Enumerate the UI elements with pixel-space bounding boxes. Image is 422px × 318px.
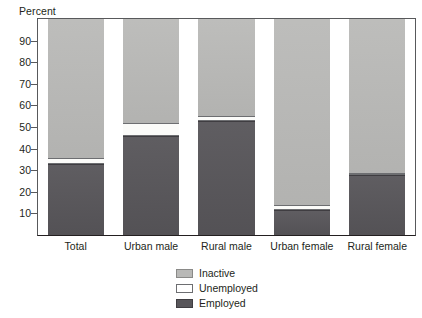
- y-axis-tick-label: 70: [5, 79, 31, 90]
- bar-segment-inactive[interactable]: [274, 19, 330, 205]
- y-axis-tick-mark: [31, 192, 37, 193]
- y-axis-tick-label: 40: [5, 144, 31, 155]
- x-axis-label-rural-female: Rural female: [340, 240, 415, 252]
- legend-swatch-employed-icon: [176, 299, 193, 308]
- legend-label: Unemployed: [199, 282, 258, 294]
- bar-segment-inactive[interactable]: [349, 19, 405, 173]
- y-axis-tick-label: 30: [5, 165, 31, 176]
- x-axis-label-urban-male: Urban male: [113, 240, 188, 252]
- y-axis-tick-mark: [31, 62, 37, 63]
- bar-urban-female[interactable]: [274, 19, 330, 235]
- legend-label: Inactive: [199, 267, 235, 279]
- y-axis-tick-mark: [31, 105, 37, 106]
- bar-segment-inactive[interactable]: [198, 19, 254, 116]
- legend-item-employed[interactable]: Employed: [176, 296, 326, 310]
- bar-segment-unemployed[interactable]: [198, 116, 254, 120]
- x-axis-label-rural-male: Rural male: [189, 240, 264, 252]
- bars-layer: [38, 19, 415, 235]
- y-axis-tick-label: 90: [5, 36, 31, 47]
- chart-legend: InactiveUnemployedEmployed: [176, 266, 326, 311]
- y-axis-tick-mark: [31, 170, 37, 171]
- bar-segment-employed[interactable]: [349, 175, 405, 235]
- bar-segment-employed[interactable]: [274, 210, 330, 235]
- legend-swatch-unemployed-icon: [176, 284, 193, 293]
- y-axis-tick-label: 60: [5, 100, 31, 111]
- bar-segment-inactive[interactable]: [48, 19, 104, 158]
- y-axis-tick-label: 80: [5, 57, 31, 68]
- bar-segment-unemployed[interactable]: [123, 123, 179, 136]
- bar-segment-employed[interactable]: [198, 121, 254, 235]
- bar-total[interactable]: [48, 19, 104, 235]
- y-axis-tick-mark: [31, 149, 37, 150]
- legend-item-inactive[interactable]: Inactive: [176, 266, 326, 280]
- y-axis-tick-mark: [31, 41, 37, 42]
- bar-segment-unemployed[interactable]: [274, 205, 330, 210]
- y-axis-tick-mark: [31, 213, 37, 214]
- y-axis-tick-label: 50: [5, 122, 31, 133]
- bar-segment-inactive[interactable]: [123, 19, 179, 123]
- x-axis-category-labels: TotalUrban maleRural maleUrban femaleRur…: [38, 240, 415, 256]
- stacked-bar-chart: Percent 102030405060708090 TotalUrban ma…: [0, 0, 422, 318]
- legend-item-unemployed[interactable]: Unemployed: [176, 281, 326, 295]
- y-axis-tick-label: 10: [5, 208, 31, 219]
- bar-urban-male[interactable]: [123, 19, 179, 235]
- bar-rural-female[interactable]: [349, 19, 405, 235]
- legend-swatch-inactive-icon: [176, 269, 193, 278]
- y-axis-title: Percent: [19, 5, 56, 17]
- bar-segment-employed[interactable]: [48, 164, 104, 235]
- bar-rural-male[interactable]: [198, 19, 254, 235]
- y-axis-tick-label: 20: [5, 187, 31, 198]
- bar-segment-unemployed[interactable]: [48, 158, 104, 163]
- legend-label: Employed: [199, 297, 246, 309]
- y-axis-tick-mark: [31, 127, 37, 128]
- bar-segment-unemployed[interactable]: [349, 173, 405, 175]
- y-axis-tick-mark: [31, 84, 37, 85]
- x-axis-label-total: Total: [38, 240, 113, 252]
- bar-segment-employed[interactable]: [123, 136, 179, 235]
- x-axis-label-urban-female: Urban female: [264, 240, 339, 252]
